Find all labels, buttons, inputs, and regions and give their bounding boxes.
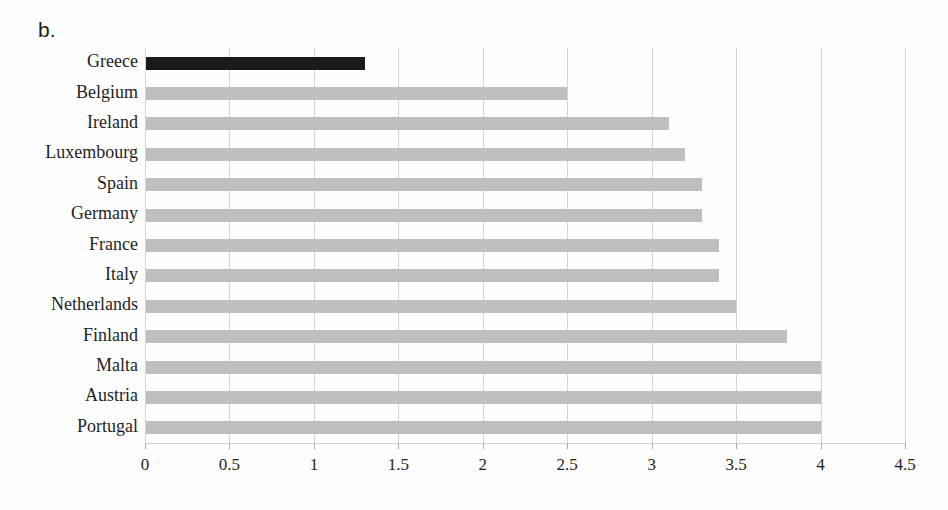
gridline <box>821 48 822 443</box>
category-label-portugal: Portugal <box>0 416 138 437</box>
gridline <box>905 48 906 443</box>
category-label-france: France <box>0 234 138 255</box>
category-label-belgium: Belgium <box>0 82 138 103</box>
category-label-greece: Greece <box>0 51 138 72</box>
category-label-ireland: Ireland <box>0 112 138 133</box>
bar-belgium <box>146 87 567 100</box>
category-label-finland: Finland <box>0 325 138 346</box>
x-tick-label: 1.5 <box>366 455 430 475</box>
bar-spain <box>146 178 702 191</box>
x-axis-line <box>145 443 905 444</box>
axis-tick <box>905 443 906 449</box>
x-tick-label: 4.5 <box>873 455 937 475</box>
x-tick-label: 0 <box>113 455 177 475</box>
category-label-spain: Spain <box>0 173 138 194</box>
x-tick-label: 0.5 <box>197 455 261 475</box>
category-label-netherlands: Netherlands <box>0 294 138 315</box>
x-tick-label: 3.5 <box>704 455 768 475</box>
bar-finland <box>146 330 787 343</box>
gridline <box>736 48 737 443</box>
bar-france <box>146 239 719 252</box>
category-label-italy: Italy <box>0 264 138 285</box>
x-tick-label: 3 <box>620 455 684 475</box>
bar-austria <box>146 391 821 404</box>
x-tick-label: 2.5 <box>535 455 599 475</box>
bar-luxembourg <box>146 148 685 161</box>
bar-portugal <box>146 421 821 434</box>
x-tick-label: 2 <box>451 455 515 475</box>
bar-netherlands <box>146 300 736 313</box>
x-tick-label: 1 <box>282 455 346 475</box>
bar-ireland <box>146 117 669 130</box>
bar-germany <box>146 209 702 222</box>
bar-malta <box>146 361 821 374</box>
category-label-malta: Malta <box>0 355 138 376</box>
category-label-luxembourg: Luxembourg <box>0 142 138 163</box>
figure-label: b. <box>38 18 56 42</box>
bar-greece <box>146 57 365 70</box>
x-tick-label: 4 <box>789 455 853 475</box>
category-label-germany: Germany <box>0 203 138 224</box>
category-label-austria: Austria <box>0 385 138 406</box>
bar-italy <box>146 269 719 282</box>
bar-chart-figure: b. 00.511.522.533.544.5GreeceBelgiumIrel… <box>0 0 948 510</box>
